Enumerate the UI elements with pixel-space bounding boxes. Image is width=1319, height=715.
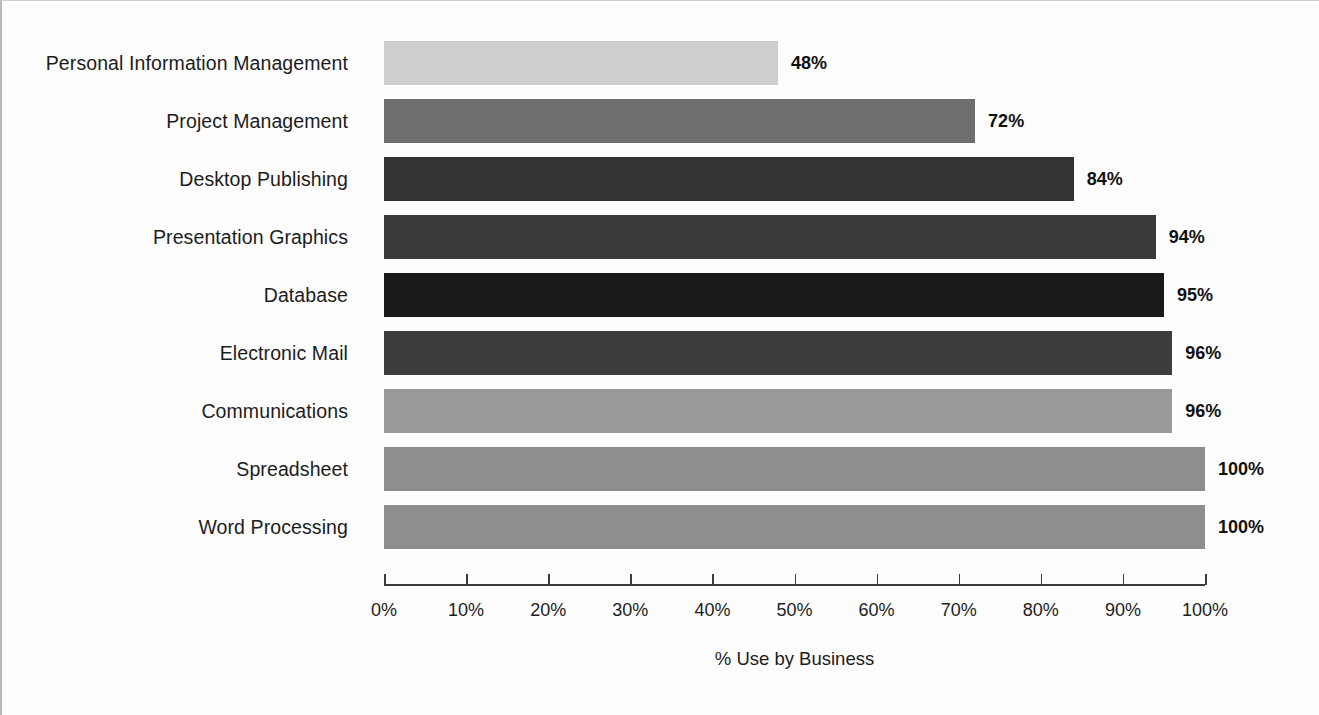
bar[interactable] — [384, 215, 1156, 259]
category-label: Database — [0, 284, 348, 307]
x-axis-tick — [548, 574, 550, 585]
x-axis: 0%10%20%30%40%50%60%70%80%90%100% — [384, 584, 1205, 585]
x-axis-tick-label: 50% — [776, 600, 812, 621]
x-axis-tick — [712, 574, 714, 585]
x-axis-tick-label: 20% — [530, 600, 566, 621]
bar-value-label: 95% — [1164, 285, 1213, 306]
bar-value-label: 96% — [1172, 343, 1221, 364]
bar[interactable] — [384, 447, 1205, 491]
x-axis-tick-label: 80% — [1023, 600, 1059, 621]
bar-row: Database95% — [0, 266, 1319, 324]
bar[interactable] — [384, 389, 1172, 433]
bar-track: 72% — [384, 92, 1205, 150]
x-axis-tick — [1123, 574, 1125, 585]
category-label: Desktop Publishing — [0, 168, 348, 191]
bar[interactable] — [384, 99, 975, 143]
bar-value-label: 100% — [1205, 517, 1264, 538]
bar[interactable] — [384, 273, 1164, 317]
x-axis-tick — [877, 574, 879, 585]
bar-row: Desktop Publishing84% — [0, 150, 1319, 208]
bar-track: 96% — [384, 324, 1205, 382]
x-axis-tick — [466, 574, 468, 585]
bar-row: Personal Information Management48% — [0, 34, 1319, 92]
x-axis-tick — [384, 574, 386, 585]
category-label: Communications — [0, 400, 348, 423]
bar-value-label: 100% — [1205, 459, 1264, 480]
category-label: Electronic Mail — [0, 342, 348, 365]
bar[interactable] — [384, 505, 1205, 549]
bar-track: 94% — [384, 208, 1205, 266]
x-axis-tick — [1041, 574, 1043, 585]
bar-track: 84% — [384, 150, 1205, 208]
x-axis-tick-label: 70% — [941, 600, 977, 621]
bar-row: Word Processing100% — [0, 498, 1319, 556]
bar-value-label: 84% — [1074, 169, 1123, 190]
x-axis-tick-label: 30% — [612, 600, 648, 621]
bar-value-label: 48% — [778, 53, 827, 74]
x-axis-tick — [959, 574, 961, 585]
bar[interactable] — [384, 157, 1074, 201]
bar-row: Spreadsheet100% — [0, 440, 1319, 498]
bar-row: Presentation Graphics94% — [0, 208, 1319, 266]
bar[interactable] — [384, 41, 778, 85]
bar-chart: Personal Information Management48%Projec… — [0, 0, 1319, 715]
bar-value-label: 72% — [975, 111, 1024, 132]
x-axis-tick — [795, 574, 797, 585]
category-label: Word Processing — [0, 516, 348, 539]
category-label: Spreadsheet — [0, 458, 348, 481]
bar-track: 96% — [384, 382, 1205, 440]
bar-track: 48% — [384, 34, 1205, 92]
bar-value-label: 94% — [1156, 227, 1205, 248]
category-label: Presentation Graphics — [0, 226, 348, 249]
x-axis-tick — [1205, 574, 1207, 585]
x-axis-tick — [630, 574, 632, 585]
bar-value-label: 96% — [1172, 401, 1221, 422]
bar-track: 100% — [384, 498, 1205, 556]
x-axis-tick-label: 100% — [1182, 600, 1228, 621]
x-axis-tick-label: 0% — [371, 600, 397, 621]
bar-track: 95% — [384, 266, 1205, 324]
bar[interactable] — [384, 331, 1172, 375]
bar-row: Project Management72% — [0, 92, 1319, 150]
x-axis-title: % Use by Business — [384, 648, 1205, 670]
bar-row: Communications96% — [0, 382, 1319, 440]
x-axis-tick-label: 10% — [448, 600, 484, 621]
x-axis-tick-label: 90% — [1105, 600, 1141, 621]
x-axis-tick-label: 40% — [694, 600, 730, 621]
bar-track: 100% — [384, 440, 1205, 498]
x-axis-tick-label: 60% — [859, 600, 895, 621]
bar-row: Electronic Mail96% — [0, 324, 1319, 382]
category-label: Project Management — [0, 110, 348, 133]
category-label: Personal Information Management — [0, 52, 348, 75]
